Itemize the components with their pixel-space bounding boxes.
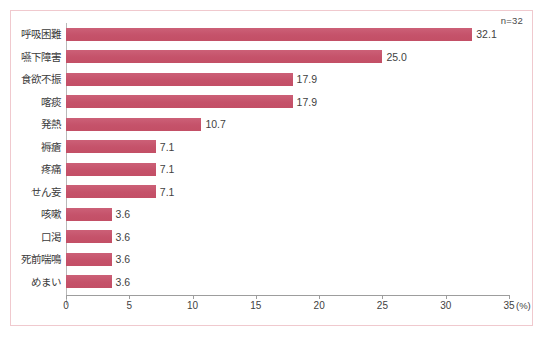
- category-label: 口渇: [11, 226, 61, 249]
- plot-area: 呼吸困難32.1嚥下障害25.0食欲不振17.9喀痰17.9発熱10.7褥瘡7.…: [11, 11, 534, 327]
- bar-value-label: 25.0: [386, 46, 406, 69]
- bar: [66, 50, 382, 63]
- x-axis-tick: [382, 295, 383, 299]
- category-label: 喀痰: [11, 91, 61, 114]
- bar-row: めまい3.6: [11, 271, 534, 294]
- x-axis-tick-label: 5: [127, 300, 133, 311]
- category-label: 嚥下障害: [11, 46, 61, 69]
- x-axis-tick: [446, 295, 447, 299]
- category-label: 咳嗽: [11, 203, 61, 226]
- bar: [66, 163, 156, 176]
- bar: [66, 230, 112, 243]
- bar-value-label: 3.6: [116, 226, 131, 249]
- bar: [66, 208, 112, 221]
- category-label: めまい: [11, 271, 61, 294]
- bar: [66, 73, 293, 86]
- bar: [66, 275, 112, 288]
- x-axis-tick: [509, 295, 510, 299]
- bar: [66, 95, 293, 108]
- category-label: 発熱: [11, 113, 61, 136]
- bar-row: せん妄7.1: [11, 181, 534, 204]
- bar-row: 咳嗽3.6: [11, 203, 534, 226]
- category-label: 褥瘡: [11, 136, 61, 159]
- category-label: せん妄: [11, 181, 61, 204]
- x-axis-tick-label: 20: [314, 300, 325, 311]
- bar-row: 嚥下障害25.0: [11, 46, 534, 69]
- bar-value-label: 10.7: [205, 113, 225, 136]
- bar-value-label: 3.6: [116, 203, 131, 226]
- category-label: 呼吸困難: [11, 23, 61, 46]
- bar-value-label: 7.1: [160, 136, 175, 159]
- bar-value-label: 3.6: [116, 248, 131, 271]
- chart-figure: n=32 呼吸困難32.1嚥下障害25.0食欲不振17.9喀痰17.9発熱10.…: [0, 0, 546, 340]
- bar-row: 呼吸困難32.1: [11, 23, 534, 46]
- bar-value-label: 17.9: [297, 91, 317, 114]
- x-axis-tick: [66, 295, 67, 299]
- bar-row: 発熱10.7: [11, 113, 534, 136]
- bar: [66, 118, 201, 131]
- x-axis-tick: [129, 295, 130, 299]
- bar-value-label: 7.1: [160, 181, 175, 204]
- x-axis-tick-label: 0: [63, 300, 69, 311]
- bar-row: 口渇3.6: [11, 226, 534, 249]
- bar-row: 食欲不振17.9: [11, 68, 534, 91]
- bar-row: 褥瘡7.1: [11, 136, 534, 159]
- x-axis-unit-label: (%): [516, 300, 531, 311]
- category-label: 疼痛: [11, 158, 61, 181]
- bar: [66, 185, 156, 198]
- category-label: 食欲不振: [11, 68, 61, 91]
- bar: [66, 253, 112, 266]
- x-axis-tick-label: 25: [377, 300, 388, 311]
- x-axis-tick: [256, 295, 257, 299]
- x-axis-tick-label: 15: [250, 300, 261, 311]
- x-axis-tick-label: 10: [187, 300, 198, 311]
- x-axis-line: [66, 295, 510, 296]
- bar: [66, 28, 472, 41]
- bar-value-label: 32.1: [476, 23, 496, 46]
- bar-row: 死前喘鳴3.6: [11, 248, 534, 271]
- bar-value-label: 17.9: [297, 68, 317, 91]
- x-axis-tick-label: 35: [503, 300, 514, 311]
- category-label: 死前喘鳴: [11, 248, 61, 271]
- chart-frame: n=32 呼吸困難32.1嚥下障害25.0食欲不振17.9喀痰17.9発熱10.…: [10, 10, 533, 326]
- x-axis-tick-label: 30: [440, 300, 451, 311]
- bar-value-label: 7.1: [160, 158, 175, 181]
- bar-row: 疼痛7.1: [11, 158, 534, 181]
- bar: [66, 140, 156, 153]
- bar-row: 喀痰17.9: [11, 91, 534, 114]
- x-axis-tick: [319, 295, 320, 299]
- x-axis-tick: [193, 295, 194, 299]
- bar-value-label: 3.6: [116, 271, 131, 294]
